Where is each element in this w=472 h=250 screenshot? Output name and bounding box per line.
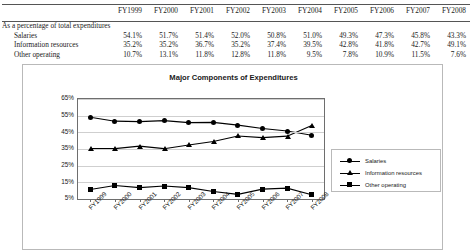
data-point-information-resources-FY2006 (260, 135, 266, 140)
column-header-fy2007: FY2007 (400, 6, 436, 18)
column-header-fy2005: FY2005 (328, 6, 364, 18)
legend-marker-triangle-icon (340, 169, 360, 177)
legend-marker-circle-icon (340, 157, 360, 165)
y-axis-tick-45: 45% (44, 128, 74, 135)
section-label: As a percentage of total expenditures (0, 21, 112, 31)
cell-inforesources-fy2003: 37.4% (256, 40, 292, 50)
data-point-other-operating-FY2001 (137, 185, 142, 190)
data-point-information-resources-FY2004 (211, 139, 217, 144)
data-point-information-resources-FY2007 (285, 134, 291, 139)
data-point-other-operating-FY2004 (211, 189, 216, 194)
chart-container: Major Components of Expenditures 5%15%25… (22, 64, 443, 250)
cell-inforesources-fy2005: 42.8% (328, 40, 364, 50)
column-header-fy2006: FY2006 (364, 6, 400, 18)
y-axis-tick-35: 35% (44, 144, 74, 151)
data-point-other-operating-FY2008 (309, 192, 314, 197)
data-point-information-resources-FY2005 (235, 133, 241, 138)
cell-inforesources-fy2002: 35.2% (220, 40, 256, 50)
table-grid: FY1999 FY2000 FY2001 FY2002 FY2003 FY200… (0, 6, 472, 59)
table-top-rule (2, 4, 470, 5)
y-axis-tick-25: 25% (44, 161, 74, 168)
column-header-fy2001: FY2001 (184, 6, 220, 18)
gridline (78, 116, 324, 117)
data-point-salaries-FY1999 (88, 115, 93, 120)
cell-salaries-fy2001: 51.4% (184, 31, 220, 41)
data-point-other-operating-FY2005 (235, 192, 240, 197)
data-point-other-operating-FY2007 (285, 186, 290, 191)
table-row: Salaries 54.1% 51.7% 51.4% 52.0% 50.8% 5… (0, 31, 472, 41)
data-point-salaries-FY2008 (309, 133, 314, 138)
cell-salaries-fy2007: 45.8% (400, 31, 436, 41)
table-row: Information resources 35.2% 35.2% 36.7% … (0, 40, 472, 50)
data-point-other-operating-FY2006 (260, 187, 265, 192)
data-point-information-resources-FY2008 (309, 123, 315, 128)
cell-inforesources-fy2000: 35.2% (148, 40, 184, 50)
legend-label: Information resources (365, 170, 422, 176)
data-point-salaries-FY2004 (211, 120, 216, 125)
y-axis-tick-5: 5% (44, 194, 74, 201)
cell-otheroperating-fy2000: 13.1% (148, 50, 184, 60)
data-point-salaries-FY2002 (162, 118, 167, 123)
gridline (78, 99, 324, 100)
cell-inforesources-fy2001: 36.7% (184, 40, 220, 50)
y-axis-tick-65: 65% (44, 94, 74, 101)
table-section-row: As a percentage of total expenditures (0, 21, 472, 31)
cell-inforesources-fy2008: 49.1% (436, 40, 472, 50)
table-corner-cell (0, 6, 112, 18)
plot-area (77, 98, 325, 200)
y-axis-tick-55: 55% (44, 111, 74, 118)
cell-otheroperating-fy2003: 11.8% (256, 50, 292, 60)
y-axis-tick-15: 15% (44, 178, 74, 185)
cell-salaries-fy1999: 54.1% (112, 31, 148, 41)
gridline (78, 166, 324, 167)
data-point-other-operating-FY2000 (112, 183, 117, 188)
column-header-fy2002: FY2002 (220, 6, 256, 18)
data-point-information-resources-FY2000 (112, 146, 118, 151)
legend-marker-square-icon (340, 181, 360, 189)
row-label-salaries: Salaries (0, 31, 112, 41)
column-header-fy1999: FY1999 (112, 6, 148, 18)
cell-otheroperating-fy2008: 7.6% (436, 50, 472, 60)
cell-salaries-fy2004: 51.0% (292, 31, 328, 41)
cell-otheroperating-fy2001: 11.8% (184, 50, 220, 60)
cell-salaries-fy2005: 49.3% (328, 31, 364, 41)
data-point-information-resources-FY1999 (88, 146, 94, 151)
series-line-information-resources (90, 126, 311, 149)
cell-otheroperating-fy2004: 9.5% (292, 50, 328, 60)
cell-salaries-fy2003: 50.8% (256, 31, 292, 41)
row-label-other-operating: Other operating (0, 50, 112, 60)
x-axis-tick-labels: FY1999FY2000FY2001FY2002FY2003FY2004FY20… (77, 202, 337, 246)
cell-otheroperating-fy2006: 10.9% (364, 50, 400, 60)
column-header-fy2000: FY2000 (148, 6, 184, 18)
chart-title: Major Components of Expenditures (23, 73, 444, 82)
cell-inforesources-fy2004: 39.5% (292, 40, 328, 50)
cell-salaries-fy2006: 47.3% (364, 31, 400, 41)
cell-inforesources-fy2006: 41.8% (364, 40, 400, 50)
cell-salaries-fy2002: 52.0% (220, 31, 256, 41)
legend-label: Other operating (365, 182, 406, 188)
cell-inforesources-fy2007: 42.7% (400, 40, 436, 50)
cell-otheroperating-fy2005: 7.8% (328, 50, 364, 60)
chart-legend: SalariesInformation resourcesOther opera… (331, 149, 441, 192)
data-point-information-resources-FY2001 (137, 144, 143, 149)
cell-otheroperating-fy1999: 10.7% (112, 50, 148, 60)
data-point-information-resources-FY2002 (162, 146, 168, 151)
legend-item-salaries[interactable]: Salaries (340, 156, 386, 166)
legend-item-information-resources[interactable]: Information resources (340, 168, 422, 178)
cell-otheroperating-fy2002: 12.8% (220, 50, 256, 60)
table-header-row: FY1999 FY2000 FY2001 FY2002 FY2003 FY200… (0, 6, 472, 18)
data-point-salaries-FY2006 (260, 126, 265, 131)
table-row: Other operating 10.7% 13.1% 11.8% 12.8% … (0, 50, 472, 60)
column-header-fy2004: FY2004 (292, 6, 328, 18)
legend-item-other-operating[interactable]: Other operating (340, 180, 406, 190)
data-point-other-operating-FY1999 (88, 187, 93, 192)
column-header-fy2003: FY2003 (256, 6, 292, 18)
legend-label: Salaries (365, 158, 386, 164)
data-point-information-resources-FY2003 (186, 142, 192, 147)
data-point-other-operating-FY2003 (186, 185, 191, 190)
cell-salaries-fy2008: 43.3% (436, 31, 472, 41)
data-point-other-operating-FY2002 (162, 184, 167, 189)
cell-otheroperating-fy2007: 11.5% (400, 50, 436, 60)
row-label-information-resources: Information resources (0, 40, 112, 50)
y-axis-tick-labels: 5%15%25%35%45%55%65% (41, 98, 74, 200)
